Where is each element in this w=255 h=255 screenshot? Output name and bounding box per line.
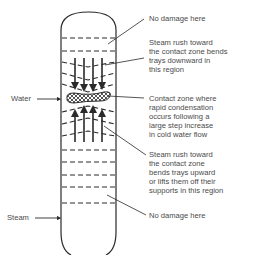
annotation-downward-bend: Steam rush toward the contact zone bends… — [149, 38, 228, 74]
water-label: Water — [11, 94, 31, 103]
contact-zone — [67, 92, 111, 103]
top-flat-trays — [62, 38, 115, 51]
leader-lines — [104, 19, 146, 215]
upward-steam-arrows — [75, 109, 102, 142]
downward-steam-arrows — [75, 58, 102, 88]
column-shell — [61, 12, 116, 255]
inlet-arrows — [35, 99, 59, 218]
upward-bent-trays — [62, 106, 115, 136]
annotation-upward-bend: Steam rush toward the contact zone bends… — [149, 150, 223, 195]
downward-bent-trays — [62, 62, 115, 92]
annotation-contact-zone: Contact zone where rapid condensation oc… — [149, 94, 217, 139]
annotation-top-no-damage: No damage here — [149, 14, 206, 23]
steam-label: Steam — [7, 213, 29, 222]
annotation-bottom-no-damage: No damage here — [149, 211, 206, 220]
